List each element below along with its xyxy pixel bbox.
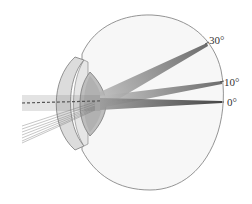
angle-label-0: 0° [227,97,237,108]
eye-diagram [0,0,252,204]
angle-label-10: 10° [224,77,239,88]
angle-label-30: 30° [209,35,224,46]
